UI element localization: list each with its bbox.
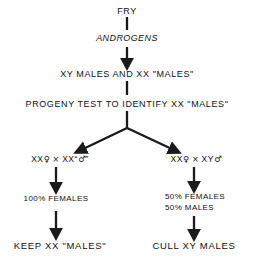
node-right-cross: XX♀ × XY♂: [171, 154, 222, 165]
male-symbol-icon: ♂: [214, 154, 222, 164]
node-left-cross: XX♀ × XX“♂”: [31, 154, 89, 165]
node-right-outcome: CULL XY MALES: [152, 240, 235, 251]
connector-split-left: [81, 128, 127, 150]
flowchart-diagram: FRY ANDROGENS XY MALES AND XX "MALES" PR…: [0, 0, 253, 265]
node-right-result: 50% FEMALES 50% MALES: [165, 191, 225, 213]
node-left-result: 100% FEMALES: [24, 193, 89, 204]
cross-operator-icon: ×: [192, 155, 199, 164]
node-androgens: ANDROGENS: [96, 33, 158, 44]
node-population: XY MALES AND XX "MALES": [60, 69, 194, 80]
cross-operator-icon: ×: [53, 155, 60, 164]
left-cross-female-genotype: XX: [31, 154, 43, 164]
node-progeny-test: PROGENY TEST TO IDENTIFY XX "MALES": [26, 99, 229, 110]
female-symbol-icon: ♀: [44, 154, 50, 164]
right-result-line-1: 50% FEMALES: [165, 191, 225, 202]
connector-split-right: [127, 128, 174, 150]
right-cross-female-genotype: XX: [171, 154, 183, 164]
left-cross-male-genotype: XX: [62, 154, 74, 164]
node-fry: FRY: [117, 6, 137, 17]
right-cross-male-genotype: XY: [202, 154, 214, 164]
left-male-close-quote: ”: [86, 154, 89, 164]
female-symbol-icon: ♀: [183, 154, 189, 164]
node-left-outcome: KEEP XX "MALES": [14, 240, 107, 251]
right-result-line-2: 50% MALES: [165, 202, 225, 213]
